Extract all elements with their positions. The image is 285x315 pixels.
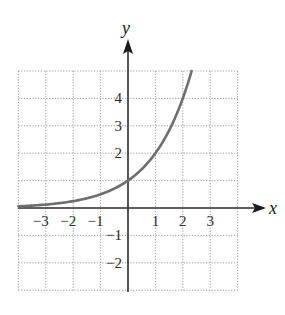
y-tick-label: 2 <box>115 145 123 161</box>
exponential-curve <box>18 71 191 206</box>
y-tick-label: 4 <box>115 90 123 106</box>
x-tick-label: −3 <box>33 213 49 229</box>
axes <box>18 39 266 292</box>
y-tick-label: −1 <box>106 227 122 243</box>
y-tick-label: −2 <box>106 255 122 271</box>
y-axis-label: y <box>120 18 130 38</box>
x-tick-label: 3 <box>206 213 214 229</box>
x-tick-label: 1 <box>152 213 160 229</box>
exponential-graph: −3−2−1123 432−1−2 x y <box>0 0 285 315</box>
y-tick-label: 3 <box>115 118 123 134</box>
x-tick-label: −2 <box>60 213 76 229</box>
x-tick-labels: −3−2−1123 <box>33 213 214 229</box>
x-tick-label: −1 <box>88 213 104 229</box>
x-tick-label: 2 <box>179 213 187 229</box>
x-axis-label: x <box>268 198 277 218</box>
